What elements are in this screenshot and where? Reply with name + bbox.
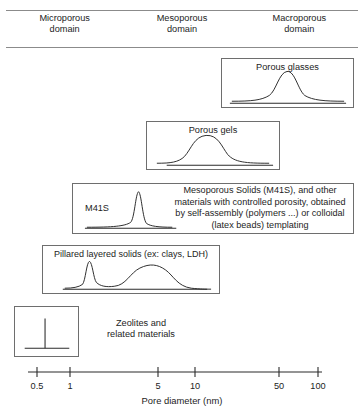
panel-zeolites bbox=[14, 306, 79, 357]
pore-size-distribution-figure: Microporous domain Mesoporous domain Mac… bbox=[0, 0, 364, 415]
m41s-description-line-1: Mesoporous Solids (M41S), and other bbox=[167, 185, 353, 197]
domain-microporous-line1: Microporous bbox=[39, 13, 90, 23]
axis-tick-label: 0.5 bbox=[31, 381, 44, 391]
panel-porous-gels: Porous gels bbox=[146, 121, 280, 170]
axis-tick-label: 10 bbox=[190, 381, 200, 391]
domain-header-row: Microporous domain Mesoporous domain Mac… bbox=[6, 13, 358, 46]
axis-tick-label: 100 bbox=[310, 381, 325, 391]
panel-m41s: M41S Mesoporous Solids (M41S), and other… bbox=[72, 183, 354, 234]
domain-mesoporous-line2: domain bbox=[123, 24, 240, 35]
axis-tick-label: 5 bbox=[155, 381, 160, 391]
m41s-description-line-3: by self-assembly (polymers ...) or collo… bbox=[167, 208, 353, 220]
header-top-rule bbox=[6, 10, 358, 11]
domain-macroporous-line2: domain bbox=[241, 24, 358, 35]
domain-microporous-line2: domain bbox=[6, 24, 123, 35]
domain-mesoporous-line1: Mesoporous bbox=[157, 13, 208, 23]
axis-tick-label: 50 bbox=[274, 381, 284, 391]
domain-macroporous: Macroporous domain bbox=[241, 13, 358, 36]
axis-title: Pore diameter (nm) bbox=[0, 395, 364, 406]
m41s-description: Mesoporous Solids (M41S), and other mate… bbox=[167, 185, 353, 231]
header-bottom-rule bbox=[6, 47, 358, 48]
porous-gels-caption: Porous gels bbox=[147, 125, 279, 136]
zeolites-caption-line1: Zeolites and bbox=[116, 318, 166, 328]
domain-macroporous-line1: Macroporous bbox=[273, 13, 327, 23]
axis-tick-label: 1 bbox=[67, 381, 72, 391]
zeolites-curve bbox=[15, 307, 78, 356]
m41s-description-line-4: (latex beads) templating bbox=[167, 220, 353, 232]
pillared-layered-solids-caption: Pillared layered solids (ex: clays, LDH) bbox=[43, 249, 219, 260]
domain-microporous: Microporous domain bbox=[6, 13, 123, 36]
zeolites-caption: Zeolites and related materials bbox=[86, 318, 196, 341]
m41s-description-line-2: materials with controlled porosity, obta… bbox=[167, 197, 353, 209]
porous-glasses-caption: Porous glasses bbox=[222, 62, 353, 73]
domain-mesoporous: Mesoporous domain bbox=[123, 13, 240, 36]
m41s-peak-label: M41S bbox=[85, 203, 109, 214]
panel-porous-glasses: Porous glasses bbox=[221, 58, 354, 108]
panel-pillared-layered-solids: Pillared layered solids (ex: clays, LDH) bbox=[42, 245, 220, 294]
zeolites-caption-line2: related materials bbox=[86, 329, 196, 340]
